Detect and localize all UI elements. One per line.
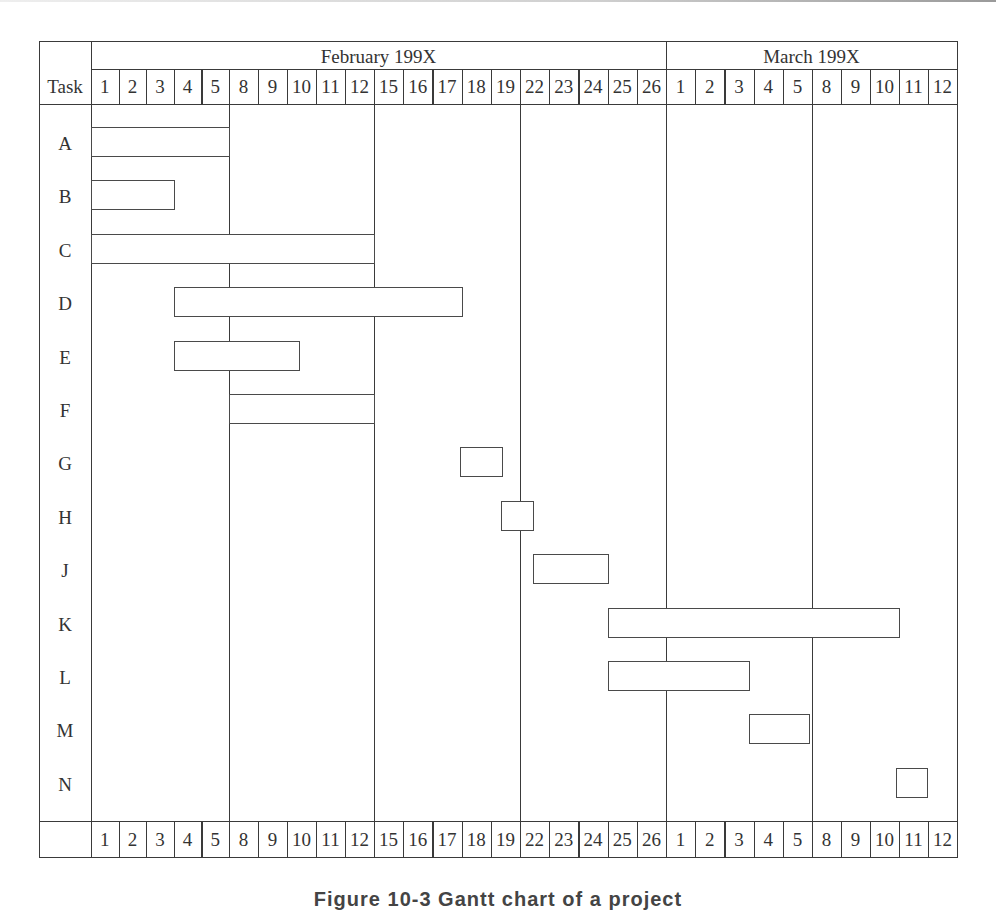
task-label: M: [39, 721, 91, 740]
day-label: 9: [258, 830, 287, 849]
day-label: 16: [403, 77, 432, 96]
task-bar-b: [91, 180, 175, 210]
day-label: 5: [783, 830, 812, 849]
day-cell-divider: [345, 69, 346, 104]
day-cell-divider: [928, 821, 929, 857]
day-cell-divider: [520, 69, 521, 104]
day-cell-divider: [724, 69, 725, 104]
task-label: D: [39, 294, 91, 313]
day-cell-divider: [258, 69, 259, 104]
day-label: 10: [870, 77, 899, 96]
day-cell-divider: [549, 69, 550, 104]
task-label: K: [39, 615, 91, 634]
day-label: 12: [345, 77, 374, 96]
task-label: L: [39, 668, 91, 687]
day-cell-divider: [287, 69, 288, 104]
frame-right: [957, 41, 958, 858]
day-label: 18: [462, 830, 491, 849]
task-bar-n: [896, 768, 928, 798]
day-label: 1: [666, 830, 695, 849]
day-cell-divider: [637, 821, 638, 857]
day-cell-divider: [578, 821, 579, 857]
day-label: 1: [666, 77, 695, 96]
task-label: G: [39, 454, 91, 473]
day-label: 15: [374, 77, 403, 96]
task-label: N: [39, 775, 91, 794]
day-cell-divider: [462, 821, 463, 857]
day-cell-divider: [899, 69, 900, 104]
week-separator-line: [520, 104, 521, 821]
day-cell-divider: [608, 821, 609, 857]
day-cell-divider: [462, 69, 463, 104]
day-cell-divider: [578, 69, 579, 104]
day-label: 23: [549, 77, 578, 96]
task-bar-m: [749, 714, 810, 744]
day-label: 8: [812, 77, 841, 96]
task-bar-g: [460, 447, 503, 477]
day-label: 10: [287, 77, 316, 96]
task-label: H: [39, 508, 91, 527]
frame-top: [39, 41, 957, 42]
day-cell-divider: [928, 69, 929, 104]
day-cell-divider: [666, 69, 667, 104]
day-cell-divider: [201, 69, 202, 104]
day-cell-divider: [146, 821, 147, 857]
day-cell-divider: [695, 821, 696, 857]
day-cell-divider: [403, 821, 404, 857]
day-label: 1: [91, 830, 119, 849]
day-label: 3: [724, 77, 753, 96]
day-cell-divider: [403, 69, 404, 104]
day-label: 4: [174, 830, 202, 849]
task-column-header: Task: [39, 77, 91, 96]
header-bottom-line: [39, 104, 957, 105]
day-cell-divider: [174, 821, 175, 857]
day-cell-divider: [432, 69, 433, 104]
month-label: March 199X: [666, 47, 957, 66]
footer-top-line: [39, 821, 957, 822]
day-label: 5: [783, 77, 812, 96]
day-cell-divider: [783, 821, 784, 857]
day-cell-divider: [432, 821, 433, 857]
day-label: 9: [841, 830, 870, 849]
week-separator-line: [812, 104, 813, 821]
day-label: 19: [491, 77, 520, 96]
task-bar-e: [174, 341, 300, 371]
day-label: 5: [201, 77, 229, 96]
day-label: 5: [201, 830, 229, 849]
day-label: 10: [870, 830, 899, 849]
task-bar-k: [608, 608, 900, 638]
task-label: E: [39, 348, 91, 367]
day-cell-divider: [258, 821, 259, 857]
day-cell-divider: [812, 821, 813, 857]
figure-caption: Figure 10-3 Gantt chart of a project: [0, 888, 996, 911]
day-label: 2: [695, 830, 724, 849]
day-label: 12: [928, 77, 957, 96]
week-separator-line: [666, 104, 667, 821]
day-label: 16: [403, 830, 432, 849]
day-label: 26: [637, 830, 666, 849]
task-label: F: [39, 401, 91, 420]
day-cell-divider: [754, 69, 755, 104]
task-bar-j: [533, 554, 608, 584]
day-label: 11: [899, 830, 928, 849]
day-label: 17: [432, 830, 461, 849]
task-bar-c: [91, 234, 375, 264]
day-label: 12: [345, 830, 374, 849]
day-cell-divider: [812, 69, 813, 104]
day-label: 4: [174, 77, 202, 96]
week-separator-line: [229, 104, 230, 821]
day-cell-divider: [899, 821, 900, 857]
day-label: 2: [119, 77, 147, 96]
day-cell-divider: [316, 821, 317, 857]
month-day-divider: [91, 69, 957, 70]
day-cell-divider: [119, 69, 120, 104]
task-label: C: [39, 241, 91, 260]
day-label: 11: [316, 830, 345, 849]
day-cell-divider: [374, 69, 375, 104]
task-bar-f: [229, 394, 375, 424]
day-label: 11: [316, 77, 345, 96]
day-cell-divider: [637, 69, 638, 104]
day-label: 19: [491, 830, 520, 849]
day-label: 11: [899, 77, 928, 96]
